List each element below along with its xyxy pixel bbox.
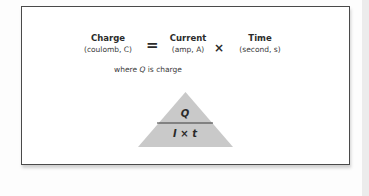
triangle-bottom-i-times-t: I × t <box>155 128 215 139</box>
triangle-top-q: Q <box>155 108 215 119</box>
time-unit: (second, s) <box>215 44 305 55</box>
charge-term: Charge (coulomb, C) <box>63 33 153 55</box>
page-edge-strip <box>362 0 369 196</box>
note-suffix: is charge <box>145 65 182 74</box>
charge-label: Charge <box>63 33 153 44</box>
charge-unit: (coulomb, C) <box>63 44 153 55</box>
note-prefix: where <box>114 65 139 74</box>
figure-stage: Charge (coulomb, C) = Current (amp, A) ×… <box>0 0 369 196</box>
time-term: Time (second, s) <box>215 33 305 55</box>
time-label: Time <box>215 33 305 44</box>
charge-symbol-note: where Q is charge <box>88 65 208 74</box>
